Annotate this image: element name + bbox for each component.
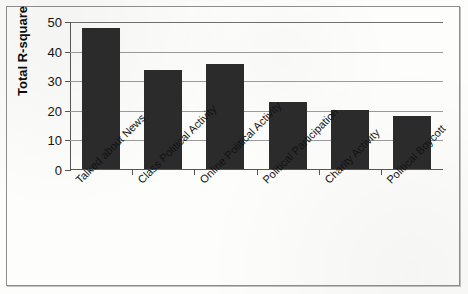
x-tick-4: [319, 170, 320, 175]
bar-chart-figure: Total R-square 01020304050 Talked about …: [0, 0, 468, 294]
y-tick-label-40: 40: [48, 45, 62, 58]
y-tick-0: [65, 170, 70, 171]
y-tick-40: [65, 52, 70, 53]
y-tick-label-0: 0: [55, 164, 62, 177]
gridline-40: [70, 52, 443, 53]
x-tick-3: [257, 170, 258, 175]
y-tick-label-50: 50: [48, 16, 62, 29]
x-tick-5: [381, 170, 382, 175]
y-tick-30: [65, 81, 70, 82]
gridline-30: [70, 81, 443, 82]
y-tick-20: [65, 111, 70, 112]
gridline-20: [70, 111, 443, 112]
y-axis-title: Total R-square: [16, 6, 29, 96]
x-tick-2: [194, 170, 195, 175]
y-axis-line: [70, 22, 71, 171]
y-tick-50: [65, 22, 70, 23]
y-tick-label-30: 30: [48, 75, 62, 88]
gridline-50: [70, 22, 443, 23]
y-tick-label-20: 20: [48, 104, 62, 117]
plot-area: 01020304050: [70, 22, 443, 170]
y-tick-10: [65, 140, 70, 141]
x-tick-1: [132, 170, 133, 175]
y-tick-label-10: 10: [48, 134, 62, 147]
